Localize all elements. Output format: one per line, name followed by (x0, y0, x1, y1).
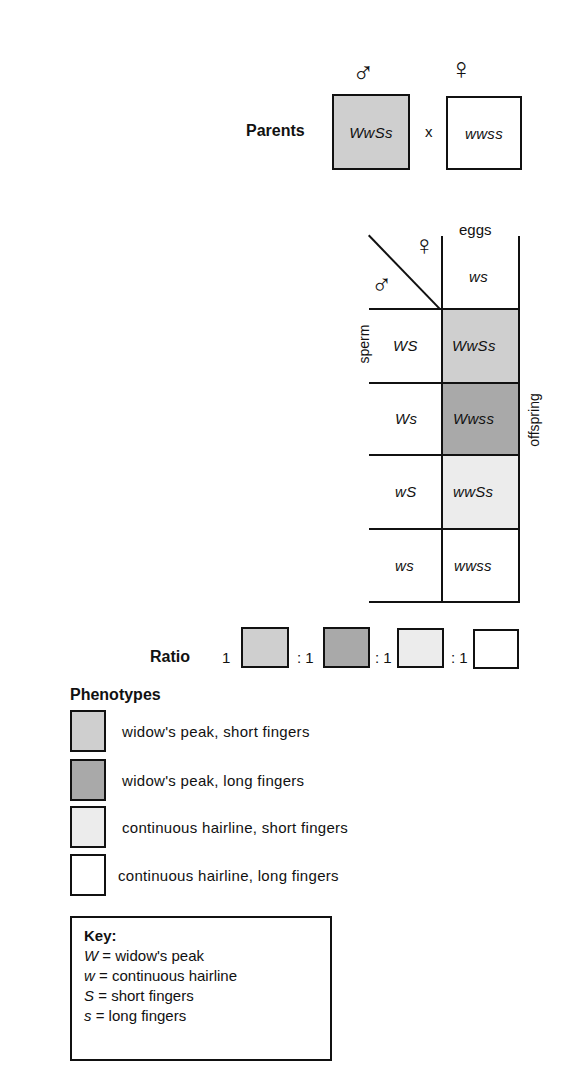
offspring-label: offspring (526, 393, 542, 446)
female-symbol-icon: ♀ (450, 54, 473, 84)
key-equals: = (98, 947, 115, 964)
male-genotype: WwSs (349, 124, 393, 141)
male-parent-box: WwSs (332, 94, 410, 170)
female-genotype: wwss (465, 125, 503, 142)
phenotype-swatch-3 (70, 806, 106, 848)
phenotypes-title: Phenotypes (70, 686, 161, 704)
offspring-genotype-3: wwSs (453, 483, 493, 500)
sperm-gamete-1: WS (393, 337, 418, 354)
grid-vertical-middle (441, 236, 443, 603)
key-entry-1: W = widow's peak (84, 946, 330, 966)
key-equals: = (92, 1007, 109, 1024)
grid-horizontal-5 (369, 601, 520, 603)
parents-label: Parents (246, 122, 305, 140)
key-entry-3: S = short fingers (84, 986, 330, 1006)
ratio-value-1: 1 (222, 649, 230, 666)
key-box: Key: W = widow's peak w = continuous hai… (70, 916, 332, 1061)
egg-gamete: ws (469, 268, 488, 285)
female-parent-box: wwss (446, 96, 522, 170)
sperm-gamete-4: ws (395, 557, 414, 574)
offspring-genotype-1: WwSs (452, 337, 496, 354)
ratio-swatch-1 (241, 627, 289, 668)
grid-horizontal-3 (369, 454, 520, 456)
key-symbol: W (84, 947, 98, 964)
sperm-gamete-2: Ws (395, 410, 417, 427)
key-symbol: s (84, 1007, 92, 1024)
grid-horizontal-4 (369, 528, 520, 530)
key-entry-4: s = long fingers (84, 1006, 330, 1026)
key-meaning: long fingers (109, 1007, 187, 1024)
phenotype-item-4: continuous hairline, long fingers (70, 857, 339, 893)
phenotype-swatch-1 (70, 710, 106, 752)
ratio-swatch-3 (397, 628, 444, 668)
key-symbol: S (84, 987, 94, 1004)
ratio-value-4: : 1 (451, 649, 468, 666)
male-symbol-icon: ♂ (352, 58, 375, 88)
phenotype-swatch-4 (70, 854, 106, 896)
grid-vertical-right (518, 236, 520, 603)
phenotype-item-1: widow's peak, short fingers (70, 713, 310, 749)
phenotype-item-2: widow's peak, long fingers (70, 762, 304, 798)
ratio-swatch-2 (323, 627, 370, 668)
phenotype-label-3: continuous hairline, short fingers (122, 819, 348, 836)
key-equals: = (94, 987, 111, 1004)
cross-sign: x (425, 123, 433, 140)
phenotype-item-3: continuous hairline, short fingers (70, 809, 348, 845)
grid-horizontal-1 (369, 308, 520, 310)
key-meaning: widow's peak (115, 947, 204, 964)
sperm-gamete-3: wS (395, 483, 416, 500)
phenotype-label-2: widow's peak, long fingers (122, 772, 304, 789)
key-equals: = (95, 967, 112, 984)
ratio-swatch-4 (473, 629, 519, 669)
key-title: Key: (84, 926, 330, 946)
key-symbol: w (84, 967, 95, 984)
corner-male-symbol-icon: ♂ (371, 271, 392, 299)
key-meaning: short fingers (111, 987, 194, 1004)
key-meaning: continuous hairline (112, 967, 237, 984)
phenotype-swatch-2 (70, 759, 106, 801)
grid-horizontal-2 (369, 382, 520, 384)
ratio-label: Ratio (150, 648, 190, 666)
sperm-label: sperm (356, 325, 372, 364)
ratio-value-2: : 1 (297, 649, 314, 666)
eggs-header: eggs (459, 221, 492, 238)
phenotype-label-1: widow's peak, short fingers (122, 723, 310, 740)
key-entry-2: w = continuous hairline (84, 966, 330, 986)
corner-female-symbol-icon: ♀ (414, 232, 435, 260)
ratio-value-3: : 1 (375, 649, 392, 666)
phenotype-label-4: continuous hairline, long fingers (118, 867, 339, 884)
offspring-genotype-4: wwss (454, 557, 492, 574)
offspring-genotype-2: Wwss (453, 410, 494, 427)
